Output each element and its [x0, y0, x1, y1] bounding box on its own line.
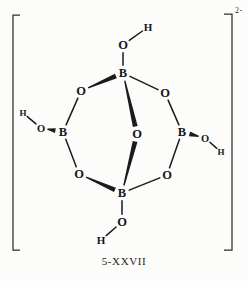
- atom-B_right: B: [178, 125, 186, 139]
- atom-B_top: B: [119, 66, 127, 80]
- atom-O_bot: O: [117, 215, 127, 229]
- bond-O_left-B_left: [47, 128, 56, 133]
- bond-O_c-B_bot: [123, 141, 137, 186]
- atom-B_left: B: [59, 125, 67, 139]
- atom-H_left: H: [19, 108, 26, 118]
- atom-B_bot: B: [118, 186, 126, 200]
- bond-O_ur-B_right: [168, 100, 179, 125]
- bond-O_lr-B_bot: [129, 178, 160, 190]
- atom-O_lr: O: [162, 168, 172, 182]
- bond-B_right-O_lr: [170, 139, 180, 167]
- bond-H_left-O_left: [27, 117, 36, 124]
- atom-O_top: O: [118, 38, 128, 52]
- bond-B_top-O_ur: [130, 76, 158, 89]
- atom-O_c: O: [132, 127, 142, 141]
- atom-H_top: H: [144, 21, 153, 33]
- bond-O_bot-H_bot: [106, 227, 116, 236]
- bond-O_top-H_top: [129, 31, 142, 40]
- figure-caption: 5-XXVII: [0, 255, 248, 267]
- bond-B_top-O_c: [124, 80, 138, 127]
- bond-O_ul-B_left: [66, 98, 78, 125]
- atom-H_bot: H: [97, 234, 106, 246]
- bond-B_left-O_ll: [66, 139, 76, 167]
- bond-O_ll-B_bot: [86, 176, 116, 192]
- atom-O_right: O: [201, 133, 209, 144]
- left-bracket: [13, 15, 20, 250]
- molecule-svg: HOBOOHOBOBOHOOBOH: [0, 0, 248, 281]
- atom-O_ur: O: [160, 86, 170, 100]
- bond-B_top-O_ul: [88, 74, 117, 89]
- atom-H_right: H: [217, 147, 224, 157]
- atom-O_left: O: [37, 123, 45, 134]
- right-bracket: [224, 14, 232, 250]
- chemical-structure-figure: HOBOOHOBOBOHOOBOH 2- 5-XXVII: [0, 0, 248, 281]
- charge-superscript: 2-: [235, 6, 243, 15]
- bond-B_right-O_right: [189, 132, 199, 137]
- atom-O_ll: O: [74, 167, 84, 181]
- bond-O_right-H_right: [210, 142, 217, 148]
- atom-O_ul: O: [76, 84, 86, 98]
